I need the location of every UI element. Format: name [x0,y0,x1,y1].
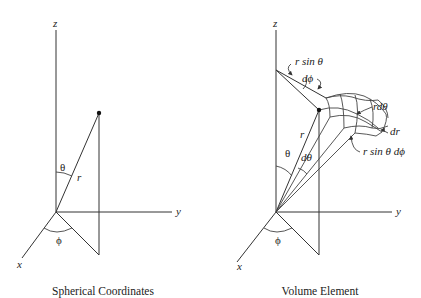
mesh-bottom [355,133,376,136]
r-sin-theta-dphi-leader [351,136,360,152]
r-label: r [300,128,305,140]
dtheta-label: dθ [301,151,313,163]
r-sin-theta-label: r sin θ [295,55,324,67]
x-axis [237,212,276,262]
z-label: z [272,17,278,29]
r-sin-theta-leader [288,64,292,75]
mesh-edge [340,94,344,128]
left-caption: Spherical Coordinates [52,285,154,298]
mesh-curve [344,126,388,129]
phi-arc [44,228,72,232]
phi-label: ϕ [275,234,281,246]
xy-projection [56,212,99,255]
radius-line [276,110,319,212]
right-caption: Volume Element [282,285,360,297]
r-sin-theta-dphi-label: r sin θ dϕ [363,145,405,157]
point-marker [317,108,321,112]
mesh-curve [319,108,378,128]
phi-arc [264,228,292,232]
theta-label: θ [60,161,65,173]
rdtheta-leader [357,107,372,114]
ray [276,133,355,212]
x-label: x [236,260,242,272]
point-marker [97,111,101,115]
dphi-label: dϕ [302,72,314,84]
x-axis [22,212,56,258]
r-label: r [77,171,82,183]
volume-element-diagram: z y x θ dθ r ϕ r sin θ dϕ rdθ dr r sin θ… [236,17,405,297]
dr-label: dr [390,125,401,137]
phi-label: ϕ [56,234,62,246]
y-label: y [175,205,181,217]
xy-projection [276,212,319,255]
x-label: x [16,258,22,270]
spherical-coordinates-diagram: z y x θ r ϕ Spherical Coordinates [16,17,181,298]
figure-canvas: z y x θ r ϕ Spherical Coordinates [0,0,421,298]
mesh-edge [376,114,387,136]
theta-arc [276,166,292,176]
mesh-edge [326,98,330,117]
theta-label: θ [285,147,290,159]
dphi-leader [317,79,321,89]
z-label: z [52,17,58,29]
rdtheta-label: rdθ [373,100,388,112]
y-label: y [395,205,401,217]
